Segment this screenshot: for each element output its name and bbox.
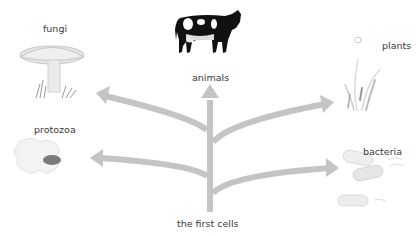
label-animals: animals [192, 72, 229, 83]
branch-plants-shaft [213, 104, 325, 142]
arrow-head-bacteria [326, 158, 339, 177]
protozoa-icon [14, 138, 61, 173]
label-plants: plants [382, 40, 411, 51]
evolution-tree-diagram [0, 0, 416, 236]
label-root: the first cells [177, 218, 239, 229]
arrow-head-animals [201, 84, 219, 98]
arrow-head-plants [320, 95, 334, 113]
branch-bacteria-shaft [213, 168, 330, 193]
label-bacteria: bacteria [363, 146, 402, 157]
cow-icon [175, 10, 241, 53]
branch-fungi-shaft [105, 96, 207, 130]
label-fungi: fungi [43, 23, 67, 34]
label-protozoa: protozoa [34, 124, 76, 135]
mushroom-icon [20, 46, 84, 98]
plant-icon [345, 37, 380, 110]
arrow-head-protozoa [90, 149, 103, 167]
arrow-head-fungi [96, 86, 110, 104]
bacteria-icon [338, 149, 404, 206]
branch-protozoa-shaft [100, 158, 207, 176]
tree-arrows [100, 96, 330, 212]
